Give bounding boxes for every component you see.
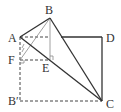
- label-B-prime: B′: [8, 94, 19, 108]
- label-B: B: [45, 3, 53, 17]
- label-E: E: [42, 61, 49, 75]
- right-angle-mark-E: [50, 56, 53, 60]
- fold-mark-1: [22, 44, 24, 48]
- segment-BC: [50, 18, 102, 101]
- segment-BF: [20, 18, 50, 60]
- label-D: D: [106, 31, 115, 45]
- label-F: F: [8, 53, 15, 67]
- fold-mark-2: [22, 48, 24, 52]
- label-C: C: [106, 97, 114, 111]
- label-A: A: [8, 31, 17, 45]
- segment-AC: [20, 37, 102, 101]
- segment-AB: [20, 18, 50, 37]
- geometry-diagram: A B D C B′ F E: [0, 0, 121, 112]
